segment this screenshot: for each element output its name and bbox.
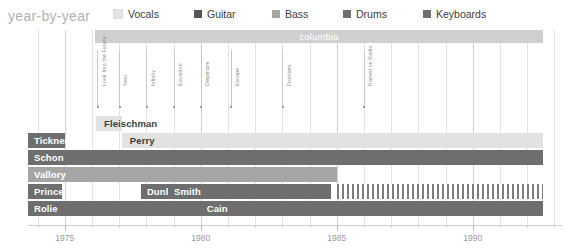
axis-tick-1982 xyxy=(255,225,256,228)
member-label-cain: Cain xyxy=(203,201,228,216)
member-bar-vallory[interactable] xyxy=(28,167,337,182)
album-marker-dot xyxy=(146,106,148,108)
member-bar-cain[interactable] xyxy=(201,201,544,216)
axis-tick-1991 xyxy=(500,225,501,228)
album-label[interactable]: Raised on Radio xyxy=(367,45,373,86)
axis-tick-1986 xyxy=(364,225,365,228)
member-label-fleischman: Fleischman xyxy=(100,116,157,131)
member-bar-perry[interactable] xyxy=(122,133,544,148)
album-marker-dot xyxy=(363,106,365,108)
legend-swatch-drums xyxy=(343,10,351,18)
album-label[interactable]: Look Into the Future xyxy=(101,37,107,86)
axis-year-label-1990: 1990 xyxy=(463,233,482,243)
axis-tick-1975 xyxy=(65,225,66,230)
album-stem xyxy=(364,50,365,108)
year-axis: 1975198019851990 xyxy=(28,225,562,252)
axis-year-label-1975: 1975 xyxy=(55,233,74,243)
album-stem xyxy=(201,50,202,108)
legend-label: Guitar xyxy=(207,9,236,19)
record-label-span-columbia[interactable]: columbia xyxy=(95,30,544,43)
member-label-rolie: Rolie xyxy=(30,201,58,216)
axis-line xyxy=(28,225,562,226)
axis-tick-1981 xyxy=(228,225,229,228)
axis-tick-1977 xyxy=(119,225,120,228)
album-stem xyxy=(174,50,175,108)
album-marker-dot xyxy=(119,106,121,108)
album-stem xyxy=(146,50,147,108)
legend-label: Bass xyxy=(285,9,308,19)
album-marker-dot xyxy=(200,106,202,108)
member-label-smith: Smith xyxy=(170,184,201,199)
axis-tick-1976 xyxy=(92,225,93,228)
album-marker-dot xyxy=(97,106,99,108)
album-label[interactable]: Departure xyxy=(204,62,210,86)
year-by-year-timeline-chart: year-by-year VocalsGuitarBassDrumsKeyboa… xyxy=(0,0,575,252)
album-marker-dot xyxy=(282,106,284,108)
album-stem xyxy=(97,50,98,108)
member-label-tickner: Tickner xyxy=(30,133,68,148)
member-label-schon: Schon xyxy=(30,150,64,165)
timeline-plot-area: columbiaLook Into the FutureNextInfinity… xyxy=(28,30,562,225)
legend-item-drums[interactable]: Drums xyxy=(343,9,387,19)
axis-year-label-1980: 1980 xyxy=(191,233,210,243)
album-label[interactable]: Frontiers xyxy=(286,64,292,86)
timeline-row: Vallory xyxy=(28,167,562,182)
legend-label: Keyboards xyxy=(436,9,486,19)
legend-swatch-guitar xyxy=(194,10,202,18)
member-label-perry: Perry xyxy=(126,133,155,148)
axis-tick-1990 xyxy=(473,225,474,230)
axis-tick-1993 xyxy=(554,225,555,228)
axis-tick-1979 xyxy=(174,225,175,228)
axis-tick-1983 xyxy=(282,225,283,228)
legend-item-guitar[interactable]: Guitar xyxy=(194,9,236,19)
legend-label: Vocals xyxy=(128,9,159,19)
legend-swatch-bass xyxy=(272,10,280,18)
album-marker-dot xyxy=(173,106,175,108)
album-label[interactable]: Next xyxy=(122,75,128,86)
timeline-row: TicknerPerry xyxy=(28,133,562,148)
axis-tick-1978 xyxy=(146,225,147,228)
album-marker-dot xyxy=(230,106,232,108)
album-label[interactable]: Escape xyxy=(234,68,240,86)
timeline-row: RolieCain xyxy=(28,201,562,216)
axis-tick-1985 xyxy=(337,225,338,230)
axis-tick-1988 xyxy=(418,225,419,228)
member-bar-schon[interactable] xyxy=(28,150,543,165)
legend-item-bass[interactable]: Bass xyxy=(272,9,308,19)
axis-tick-1984 xyxy=(310,225,311,228)
page-title: year-by-year xyxy=(8,8,90,24)
legend-item-keyboards[interactable]: Keyboards xyxy=(423,9,486,19)
axis-tick-1987 xyxy=(391,225,392,228)
legend-swatch-vocals xyxy=(113,9,123,19)
timeline-row: Schon xyxy=(28,150,562,165)
legend-label: Drums xyxy=(356,9,387,19)
axis-tick-1974 xyxy=(38,225,39,228)
legend-swatch-keyboards xyxy=(423,10,431,18)
axis-tick-1989 xyxy=(446,225,447,228)
axis-tick-1992 xyxy=(527,225,528,228)
album-stem xyxy=(119,50,120,108)
axis-year-label-1985: 1985 xyxy=(327,233,346,243)
album-label[interactable]: Infinity xyxy=(150,70,156,86)
timeline-row: PrinceDunbarSmith xyxy=(28,184,562,199)
album-label[interactable]: Evolution xyxy=(177,63,183,86)
album-stem xyxy=(282,50,283,108)
striped-segment[interactable] xyxy=(337,184,544,199)
legend-item-vocals[interactable]: Vocals xyxy=(113,9,159,19)
album-stem xyxy=(231,50,232,108)
axis-tick-1980 xyxy=(201,225,202,230)
member-label-prince: Prince xyxy=(30,184,64,199)
member-label-vallory: Vallory xyxy=(30,167,66,182)
timeline-row: Fleischman xyxy=(28,116,562,131)
